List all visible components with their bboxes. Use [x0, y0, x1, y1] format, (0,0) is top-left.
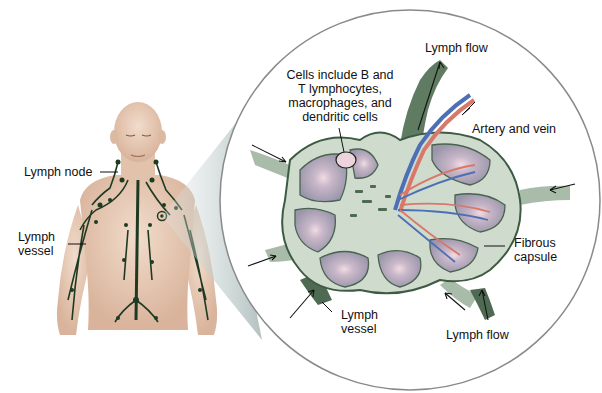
- label-cells: Cells include B and T lymphocytes, macro…: [276, 68, 404, 124]
- label-lymph-node: Lymph node: [24, 165, 92, 179]
- label-lymph-vessel-node: Lymph vessel: [341, 308, 378, 336]
- label-fibrous-capsule: Fibrous capsule: [514, 236, 557, 264]
- label-lymph-flow-top: Lymph flow: [425, 41, 488, 55]
- lymph-node-diagram: [0, 0, 602, 393]
- label-lymph-flow-bottom: Lymph flow: [446, 328, 509, 342]
- label-artery-and-vein: Artery and vein: [472, 122, 556, 136]
- label-lymph-vessel-body: Lymph vessel: [18, 230, 55, 258]
